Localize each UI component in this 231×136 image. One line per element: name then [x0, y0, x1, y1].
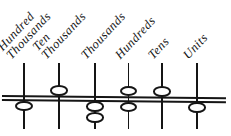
abacus-rod: [23, 63, 25, 129]
abacus-rod: [58, 63, 60, 129]
abacus-diagram: HundredThousandsTenThousandsThousandsHun…: [0, 0, 231, 136]
bead-below-bar: [86, 101, 104, 112]
bead-below-bar: [188, 102, 206, 113]
abacus-rod: [128, 63, 130, 129]
rod-label-line: Tens: [147, 35, 172, 61]
rod-label: Units: [182, 32, 211, 61]
bead-below-bar: [86, 112, 104, 123]
bead-above-bar: [50, 85, 68, 96]
rod-label-line: Units: [182, 32, 211, 61]
bead-below-bar: [15, 101, 33, 112]
rod-label: Tens: [147, 35, 172, 61]
bead-above-bar: [120, 86, 138, 97]
abacus-rod: [196, 63, 198, 129]
bead-below-bar: [120, 102, 138, 113]
bead-above-bar: [153, 86, 171, 97]
